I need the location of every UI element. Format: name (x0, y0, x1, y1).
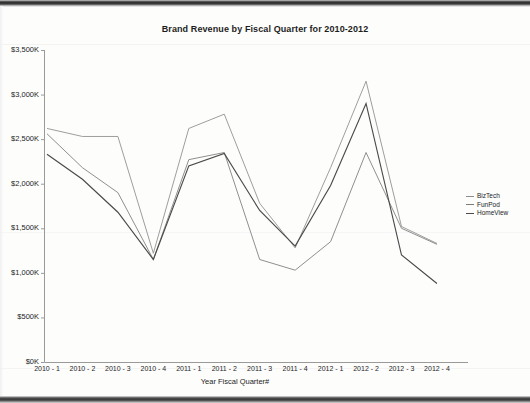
legend-swatch-homeview-icon (466, 213, 474, 214)
chart-legend: BizTechFunPodHomeView (466, 192, 508, 218)
line-chart-plot (0, 0, 530, 403)
legend-label: FunPod (477, 201, 500, 210)
x-axis-title: Year Fiscal Quarter# (0, 377, 470, 386)
legend-swatch-biztech-icon (466, 196, 474, 197)
y-axis-tick-label: $3,000K (0, 90, 39, 99)
chart-axes (45, 50, 469, 363)
chart-series-group (47, 81, 437, 283)
y-axis-tick-label: $1,000K (0, 268, 39, 277)
x-axis-tick-label: 2012 - 4 (415, 365, 459, 372)
y-axis-tick-label: $2,000K (0, 179, 39, 188)
y-axis-tick-label: $500K (0, 312, 39, 321)
legend-label: BizTech (477, 192, 500, 201)
legend-label: HomeView (477, 209, 508, 218)
legend-item-biztech[interactable]: BizTech (466, 192, 508, 201)
y-axis-ticks (41, 51, 45, 363)
legend-item-homeview[interactable]: HomeView (466, 209, 508, 218)
legend-swatch-funpod-icon (466, 204, 474, 205)
series-line-biztech (47, 81, 437, 253)
y-axis-tick-label: $3,500K (0, 45, 39, 54)
legend-item-funpod[interactable]: FunPod (466, 201, 508, 210)
y-axis-tick-label: $1,500K (0, 223, 39, 232)
y-axis-tick-label: $2,500K (0, 134, 39, 143)
chart-page: Brand Revenue by Fiscal Quarter for 2010… (0, 0, 530, 403)
